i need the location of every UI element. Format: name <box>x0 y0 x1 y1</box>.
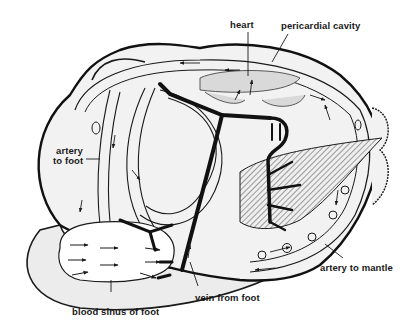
siphon-frill <box>372 108 388 205</box>
label-artery-to-foot-2: to foot <box>53 156 83 166</box>
label-pericardial-cavity: pericardial cavity <box>281 21 360 31</box>
label-vein-from-foot: vein from foot <box>195 293 260 303</box>
label-artery-to-mantle: artery to mantle <box>320 263 393 273</box>
label-blood-sinus-of-foot: blood sinus of foot <box>72 307 159 317</box>
label-heart: heart <box>230 20 254 30</box>
